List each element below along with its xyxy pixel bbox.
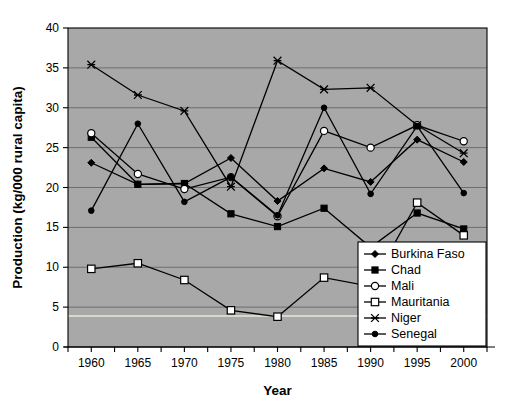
chart-canvas: 0510152025303540196019651970197519801985…: [0, 0, 511, 404]
legend-marker-circle-filled: [372, 331, 378, 337]
x-axis: 196019651970197519801985199019952000: [64, 347, 495, 370]
y-axis-title: Production (kg/000 rural capita): [10, 86, 25, 289]
data-point: [228, 211, 234, 217]
x-tick-label: 1960: [78, 356, 105, 370]
data-point: [413, 199, 420, 206]
data-point: [135, 181, 141, 187]
x-tick-label: 1980: [264, 356, 291, 370]
y-tick-label: 15: [46, 220, 60, 234]
legend: Burkina FasoChadMaliMauritaniaNigerSeneg…: [358, 242, 486, 346]
data-point: [227, 307, 234, 314]
legend-label: Chad: [391, 263, 421, 277]
x-tick-label: 1995: [404, 356, 431, 370]
production-line-chart: 0510152025303540196019651970197519801985…: [0, 0, 511, 404]
y-tick-label: 5: [52, 300, 59, 314]
data-point: [135, 121, 141, 127]
legend-label: Burkina Faso: [391, 247, 465, 261]
data-point: [134, 170, 141, 177]
data-point: [321, 105, 327, 111]
x-tick-label: 2000: [450, 356, 477, 370]
legend-marker-circle-hollow: [371, 282, 378, 289]
data-point: [181, 185, 188, 192]
data-point: [274, 313, 281, 320]
data-point: [88, 265, 95, 272]
data-point: [88, 208, 94, 214]
legend-marker-square-filled: [372, 267, 378, 273]
y-tick-label: 30: [46, 101, 60, 115]
y-axis: 0510152025303540: [46, 21, 68, 354]
x-tick-label: 1985: [311, 356, 338, 370]
y-tick-label: 0: [52, 340, 59, 354]
data-point: [368, 191, 374, 197]
data-point: [320, 274, 327, 281]
legend-label: Mali: [391, 279, 414, 293]
y-tick-label: 20: [46, 181, 60, 195]
data-point: [461, 190, 467, 196]
data-point: [460, 138, 467, 145]
data-point: [275, 213, 281, 219]
legend-label: Niger: [391, 311, 421, 325]
data-point: [274, 223, 280, 229]
y-tick-label: 35: [46, 61, 60, 75]
data-point: [414, 210, 420, 216]
data-point: [88, 130, 95, 137]
y-tick-label: 25: [46, 141, 60, 155]
data-point: [321, 205, 327, 211]
data-point: [320, 127, 327, 134]
x-tick-label: 1990: [357, 356, 384, 370]
x-tick-label: 1970: [171, 356, 198, 370]
x-tick-label: 1965: [124, 356, 151, 370]
legend-marker-square-hollow: [371, 298, 378, 305]
legend-label: Senegal: [391, 327, 437, 341]
data-point: [367, 144, 374, 151]
legend-label: Mauritania: [391, 295, 449, 309]
x-axis-title: Year: [263, 383, 292, 398]
data-point: [460, 232, 467, 239]
data-point: [414, 123, 420, 129]
data-point: [228, 174, 234, 180]
data-point: [134, 260, 141, 267]
data-point: [181, 276, 188, 283]
y-tick-label: 10: [46, 260, 60, 274]
data-point: [182, 199, 188, 205]
y-tick-label: 40: [46, 21, 60, 35]
x-tick-label: 1975: [218, 356, 245, 370]
